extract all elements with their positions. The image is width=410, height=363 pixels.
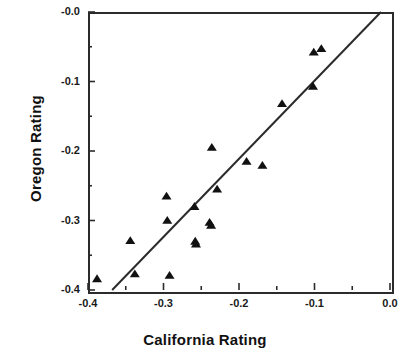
data-point: [162, 216, 172, 224]
x-tick-label: -0.3: [144, 297, 184, 309]
y-tick-label: -0.3: [46, 214, 80, 226]
caption-remnant: [18, 352, 398, 361]
data-point: [92, 274, 102, 282]
tick-marks: [88, 12, 390, 290]
x-axis-title: California Rating: [0, 331, 410, 348]
x-tick-label: -0.4: [68, 297, 108, 309]
y-tick-label: -0.1: [46, 75, 80, 87]
data-point: [125, 236, 135, 244]
reference-line: [112, 12, 381, 290]
data-point: [165, 271, 175, 279]
x-tick-label: 0.0: [370, 297, 410, 309]
data-point: [242, 157, 252, 165]
data-point: [162, 192, 172, 200]
data-point: [316, 44, 326, 52]
plot-data-layer: [88, 12, 390, 290]
y-axis-title: Oregon Rating: [27, 29, 44, 269]
x-tick-label: -0.2: [219, 297, 259, 309]
y-tick-label: -0.4: [46, 283, 80, 295]
data-point: [257, 161, 267, 169]
y-tick-label: -0.0: [46, 5, 80, 17]
data-point: [189, 202, 199, 210]
y-tick-label: -0.2: [46, 144, 80, 156]
scatter-plot-figure: Oregon Rating -0.0-0.1-0.2-0.3-0.4 -0.4-…: [0, 0, 410, 363]
data-point-group: [92, 44, 326, 282]
data-point: [277, 99, 287, 107]
x-tick-label: -0.1: [295, 297, 335, 309]
data-point: [207, 143, 217, 151]
